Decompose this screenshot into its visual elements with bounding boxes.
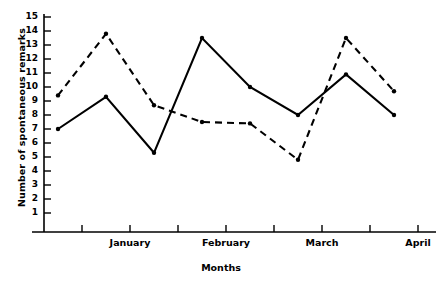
y-tick-label: 1 [18,207,38,217]
series-line-solid-line [58,38,394,153]
y-tick-label: 2 [18,193,38,203]
data-point-marker [104,32,108,36]
data-point-marker [152,151,156,155]
y-tick-label: 5 [18,151,38,161]
data-point-marker [56,127,60,131]
data-point-marker [200,36,204,40]
data-series-group [56,32,396,162]
y-tick-label: 10 [18,81,38,91]
y-tick-label: 13 [18,39,38,49]
y-tick-label: 7 [18,123,38,133]
y-tick-label: 6 [18,137,38,147]
x-axis-ticks [82,225,418,232]
y-tick-label: 14 [18,25,38,35]
y-tick-label: 4 [18,165,38,175]
y-axis-ticks [44,17,51,213]
y-tick-label: 12 [18,53,38,63]
data-point-marker [152,103,156,107]
data-point-marker [248,85,252,89]
data-point-marker [296,158,300,162]
data-point-marker [392,89,396,93]
data-point-marker [248,121,252,125]
series-line-dashed-line [58,34,394,160]
y-tick-label: 15 [18,11,38,21]
y-tick-label: 8 [18,109,38,119]
data-point-marker [56,93,60,97]
x-tick-label-march: March [277,237,367,248]
data-point-marker [296,113,300,117]
data-point-marker [392,113,396,117]
x-tick-label-january: January [85,237,175,248]
y-tick-label: 9 [18,95,38,105]
chart-figure: Number of spontaneous remarks Months 123… [0,0,442,285]
y-tick-label: 3 [18,179,38,189]
data-point-marker [344,72,348,76]
data-point-marker [104,95,108,99]
data-point-marker [200,120,204,124]
x-tick-label-february: February [181,237,271,248]
y-tick-label: 11 [18,67,38,77]
data-point-marker [344,36,348,40]
x-tick-label-april: April [373,237,442,248]
